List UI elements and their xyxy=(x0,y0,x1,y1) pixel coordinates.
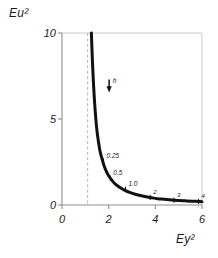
curve-point-label: 2 xyxy=(153,189,156,195)
y-axis-tick-label: 5 xyxy=(18,113,56,125)
y-axis-tick-label: 0 xyxy=(18,199,56,211)
energy-curve xyxy=(91,33,202,202)
y-axis-title: Eu² xyxy=(9,6,29,20)
chart-figure: Eu² Ey² 024605100.250.51.0234h xyxy=(0,0,218,258)
x-axis-tick-label: 2 xyxy=(106,213,112,225)
x-axis-title-text: Ey² xyxy=(176,232,195,246)
h-arrow-icon xyxy=(107,80,112,93)
curve-point-label: 0.5 xyxy=(113,170,122,177)
y-axis-tick-label: 10 xyxy=(18,27,56,39)
x-axis-tick-label: 4 xyxy=(152,213,158,225)
y-axis-title-text: Eu² xyxy=(9,6,29,20)
curve-point-label: 3 xyxy=(177,192,180,198)
x-axis-tick-label: 6 xyxy=(199,213,205,225)
curve-point-label: 0.25 xyxy=(107,153,120,160)
x-axis-title: Ey² xyxy=(176,232,195,246)
y-axis-ticks xyxy=(58,33,62,205)
curve-point-label: 4 xyxy=(202,193,205,199)
x-axis-ticks xyxy=(62,205,202,209)
curve-point-label: 1.0 xyxy=(128,181,137,188)
annotation-label-h: h xyxy=(113,78,117,85)
x-axis-tick-label: 0 xyxy=(59,213,65,225)
